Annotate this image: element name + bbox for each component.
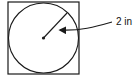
annotation-arrow bbox=[60, 22, 112, 30]
radius-line bbox=[44, 13, 68, 38]
center-dot bbox=[42, 36, 45, 39]
diagram-canvas: 2 in bbox=[0, 0, 135, 75]
radius-label: 2 in bbox=[116, 16, 132, 27]
